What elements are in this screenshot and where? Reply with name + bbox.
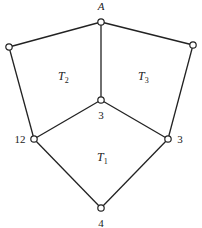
node-B (98, 205, 104, 211)
node-label-A: A (97, 0, 105, 12)
region-label-T2: T2 (58, 69, 69, 85)
planar-graph-diagram: A31234 T2T3T1 (0, 0, 202, 228)
edge-LT-LB (9, 47, 34, 139)
node-label-RB: 3 (177, 133, 183, 145)
edge-C-RB (101, 100, 168, 139)
node-label-LB: 12 (15, 133, 26, 145)
edge-RT-RB (168, 45, 193, 139)
node-label-C: 3 (98, 109, 104, 121)
edge-C-LB (34, 100, 101, 139)
node-LB (31, 136, 37, 142)
node-RB (165, 136, 171, 142)
edge-LB-B (34, 139, 101, 208)
edge-A-LT (9, 22, 101, 47)
node-C (98, 97, 104, 103)
node-label-B: 4 (98, 217, 104, 228)
labels: A31234 (15, 0, 184, 228)
edge-A-RT (101, 22, 193, 45)
edge-RB-B (101, 139, 168, 208)
node-A (98, 19, 104, 25)
node-RT (190, 42, 196, 48)
node-LT (6, 44, 12, 50)
region-label-T1: T1 (97, 150, 108, 166)
graph-svg: A31234 T2T3T1 (0, 0, 202, 228)
region-label-T3: T3 (138, 69, 149, 85)
